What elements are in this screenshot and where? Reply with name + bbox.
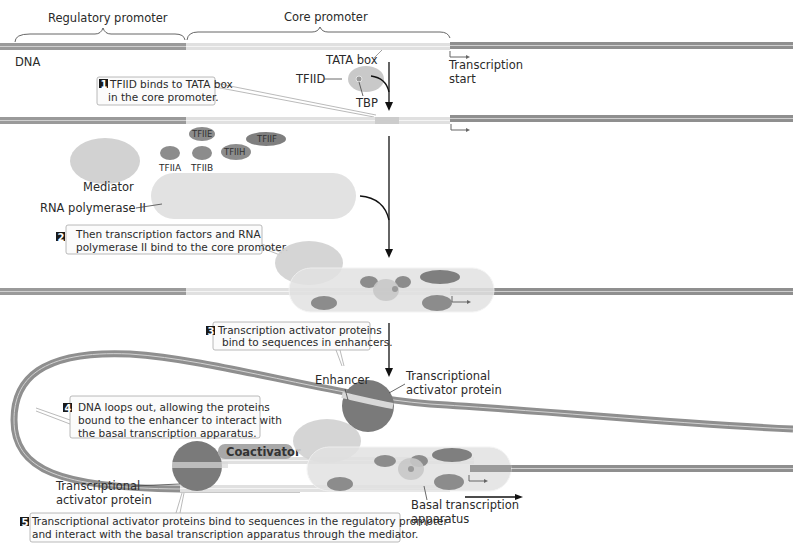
transcription-initiation-diagram: Regulatory promoter Core promoter DNA Tr… <box>0 0 793 554</box>
curved-arrow-2 <box>360 196 389 220</box>
dna-label: DNA <box>15 55 40 69</box>
svg-text:bound to the enhancer to inter: bound to the enhancer to interact with <box>78 414 282 426</box>
svg-text:and interact with the basal tr: and interact with the basal transcriptio… <box>32 528 418 540</box>
step-1-callout: 1 TFIID binds to TATA box in the core pr… <box>97 77 376 117</box>
enhancer-label: Enhancer <box>315 373 370 387</box>
svg-text:TFIIF: TFIIF <box>256 134 277 144</box>
tfiib-protein <box>192 146 212 160</box>
svg-text:the basal transcription appara: the basal transcription apparatus. <box>78 427 256 439</box>
tfiid-protein <box>348 66 384 92</box>
transcription-start-label: Transcription <box>448 58 523 72</box>
svg-text:Then transcription factors and: Then transcription factors and RNA <box>75 228 261 240</box>
step-4-badge: 4 <box>65 403 72 414</box>
activator-right-label-2: activator protein <box>406 383 502 397</box>
svg-text:TFIID binds to TATA box: TFIID binds to TATA box <box>109 78 233 90</box>
activator-left-label-2: activator protein <box>56 493 152 507</box>
svg-text:DNA loops out, allowing the pr: DNA loops out, allowing the proteins <box>78 401 270 413</box>
core-promoter-brace <box>187 27 450 40</box>
core-promoter-label: Core promoter <box>284 10 368 24</box>
tfiid-label: TFIID <box>295 72 325 86</box>
tbp-protein <box>356 76 362 82</box>
activator-left-label: Transcriptional <box>55 479 140 493</box>
svg-text:TFIIB: TFIIB <box>190 163 213 173</box>
mediator-label: Mediator <box>83 180 134 194</box>
svg-text:Transcription activator protei: Transcription activator proteins <box>217 324 382 336</box>
tbp-label: TBP <box>355 96 378 110</box>
transcription-start-label-2: start <box>449 72 476 86</box>
svg-text:Transcriptional activator prot: Transcriptional activator proteins bind … <box>31 515 448 527</box>
tfiia-protein <box>160 146 180 160</box>
dna-strand-2 <box>0 115 793 124</box>
mediator-protein <box>70 138 140 184</box>
rna-polymerase-label: RNA polymerase II <box>40 201 146 215</box>
step-1-badge: 1 <box>101 79 108 90</box>
transcription-start-arrow <box>450 51 466 57</box>
step-3-badge: 3 <box>208 326 215 337</box>
activator-right-label: Transcriptional <box>405 369 490 383</box>
svg-text:in the core promoter.: in the core promoter. <box>108 91 219 103</box>
step-2-callout: 2 Then transcription factors and RNA pol… <box>56 225 288 255</box>
svg-text:bind to sequences in enhancers: bind to sequences in enhancers. <box>222 336 393 348</box>
svg-text:TFIIA: TFIIA <box>158 163 182 173</box>
step-2-badge: 2 <box>58 232 65 243</box>
tata-box-label: TATA box <box>325 53 378 67</box>
step-3-callout: 3 Transcription activator proteins bind … <box>206 322 393 366</box>
step-5-badge: 5 <box>22 517 29 528</box>
basal-apparatus-label: Basal transcription <box>411 498 519 512</box>
regulatory-promoter-brace <box>15 28 185 42</box>
regulatory-promoter-label: Regulatory promoter <box>48 11 168 25</box>
rna-polymerase-ii <box>151 173 356 219</box>
svg-text:polymerase II bind to the core: polymerase II bind to the core promoter. <box>76 241 288 253</box>
dna-strand-1 <box>0 42 793 50</box>
svg-text:TFIIE: TFIIE <box>191 129 212 139</box>
coactivator-label: Coactivator <box>226 445 301 459</box>
svg-text:TFIIH: TFIIH <box>223 147 246 157</box>
step-4-callout: 4 DNA loops out, allowing the proteins b… <box>36 396 282 439</box>
